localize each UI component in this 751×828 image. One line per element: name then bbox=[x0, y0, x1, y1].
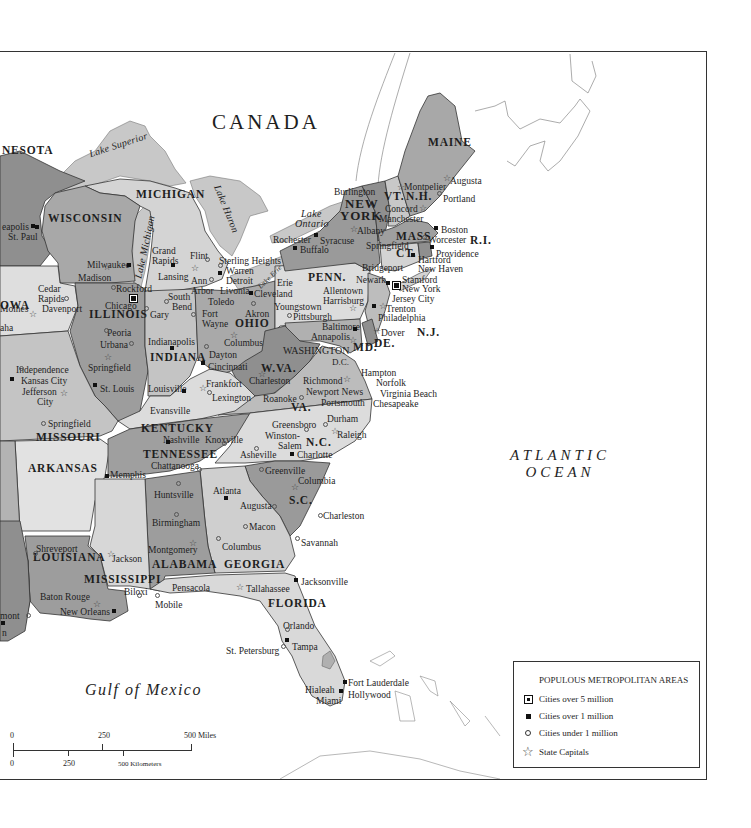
city-over-1m-icon bbox=[285, 638, 289, 642]
city-label: Biloxi bbox=[124, 587, 148, 597]
city-label: New Haven bbox=[418, 264, 463, 274]
city-over-1m-icon bbox=[1, 621, 5, 625]
city-under-1m-icon bbox=[174, 512, 179, 517]
legend-item-over-5m: Cities over 5 million bbox=[521, 694, 613, 704]
city-label: Independence bbox=[16, 365, 69, 375]
city-label: Pittsburgh bbox=[293, 312, 332, 322]
city-over-1m-icon bbox=[201, 361, 205, 365]
city-under-1m-icon bbox=[422, 235, 427, 240]
city-over-1m-icon bbox=[249, 291, 253, 295]
city-label: Jefferson bbox=[22, 387, 57, 397]
city-over-1m-icon bbox=[127, 263, 131, 267]
label-wisconsin: WISCONSIN bbox=[48, 213, 122, 223]
city-label: Cleveland bbox=[254, 289, 293, 299]
state-capital-star-icon: ☆ bbox=[331, 427, 339, 436]
scale-tick-250mi bbox=[102, 744, 103, 750]
label-missouri: MISSOURI bbox=[36, 432, 101, 442]
scale-miles-500: 500 Miles bbox=[184, 731, 216, 741]
state-capital-star-icon: ☆ bbox=[189, 539, 197, 548]
label-mississippi: MISSISSIPPI bbox=[84, 574, 161, 584]
scale-tick-250km bbox=[68, 750, 69, 756]
city-label: Springfield bbox=[88, 363, 131, 373]
city-label: St. Paul bbox=[8, 232, 38, 242]
city-under-1m-icon bbox=[33, 551, 38, 556]
city-under-1m-icon bbox=[218, 263, 223, 268]
city-label: Urbana bbox=[100, 340, 128, 350]
city-under-1m-icon bbox=[64, 296, 69, 301]
state-capital-star-icon: ☆ bbox=[236, 583, 244, 592]
label-minnesota: NESOTA bbox=[2, 145, 53, 155]
city-label: Atlanta bbox=[213, 486, 241, 496]
city-under-1m-icon bbox=[205, 257, 210, 262]
city-over-1m-icon bbox=[372, 304, 376, 308]
city-label: Ann bbox=[191, 276, 207, 286]
city-under-1m-icon bbox=[155, 593, 160, 598]
city-label: Augusta bbox=[240, 501, 272, 511]
city-label: Peoria bbox=[107, 328, 131, 338]
city-under-1m-icon bbox=[144, 306, 149, 311]
city-label: Hollywood bbox=[348, 690, 391, 700]
state-capital-star-icon: ☆ bbox=[104, 353, 112, 362]
city-label: Arbor bbox=[191, 286, 214, 296]
scale-km-250: 250 bbox=[63, 759, 75, 769]
city-over-1m-icon bbox=[182, 389, 186, 393]
scale-miles-250: 250 bbox=[98, 731, 110, 741]
city-label: Rapids bbox=[38, 294, 64, 304]
city-label: Akron bbox=[245, 309, 269, 319]
state-capital-star-icon: ☆ bbox=[349, 336, 357, 345]
city-under-1m-icon bbox=[287, 313, 292, 318]
city-under-1m-icon bbox=[272, 504, 277, 509]
city-over-1m-icon bbox=[171, 263, 175, 267]
city-over-1m-icon bbox=[411, 253, 415, 257]
state-capital-star-icon: ☆ bbox=[199, 384, 207, 393]
city-under-1m-icon bbox=[209, 277, 214, 282]
city-label: Toledo bbox=[208, 297, 234, 307]
label-tennessee: TENNESSEE bbox=[143, 449, 218, 459]
city-under-1m-icon bbox=[259, 467, 264, 472]
city-label: Winston- bbox=[265, 431, 300, 441]
city-over-5m-icon bbox=[393, 282, 400, 289]
label-washington-dc-2: D.C. bbox=[332, 357, 349, 367]
city-under-1m-icon bbox=[299, 395, 304, 400]
city-over-1m-icon bbox=[112, 609, 116, 613]
city-label: Erie bbox=[277, 278, 293, 288]
city-over-1m-icon bbox=[218, 271, 222, 275]
city-label: Tampa bbox=[292, 642, 318, 652]
square-filled-icon bbox=[521, 714, 535, 719]
state-capital-star-icon: ☆ bbox=[373, 327, 381, 336]
city-under-1m-icon bbox=[204, 344, 209, 349]
city-label: Miami bbox=[316, 696, 341, 706]
legend-label: Cities under 1 million bbox=[539, 728, 618, 738]
state-capital-star-icon: ☆ bbox=[93, 600, 101, 609]
city-label: Detroit bbox=[226, 276, 253, 286]
city-label: Huntsville bbox=[154, 490, 194, 500]
city-label: Springfield bbox=[366, 241, 409, 251]
label-atlantic-line2: OCEAN bbox=[495, 464, 625, 481]
city-under-1m-icon bbox=[216, 536, 221, 541]
city-under-1m-icon bbox=[437, 191, 442, 196]
city-label: Charlotte bbox=[297, 450, 332, 460]
city-label: Memphis bbox=[110, 470, 146, 480]
city-label: Concord bbox=[385, 204, 418, 214]
city-label: Columbia bbox=[298, 476, 335, 486]
label-nj: N.J. bbox=[417, 327, 440, 337]
city-label: Mobile bbox=[155, 600, 182, 610]
city-label: Chesapeake bbox=[373, 399, 418, 409]
city-label: Boston bbox=[441, 225, 468, 235]
scale-tick-0 bbox=[13, 743, 14, 757]
city-label: Jersey City bbox=[392, 294, 434, 304]
city-over-1m-icon bbox=[353, 327, 357, 331]
city-label: Dover bbox=[381, 328, 405, 338]
city-label: Gary bbox=[150, 310, 169, 320]
circle-open-icon bbox=[521, 730, 535, 736]
city-under-1m-icon bbox=[164, 299, 169, 304]
city-under-1m-icon bbox=[243, 524, 248, 529]
label-canada: CANADA bbox=[212, 117, 320, 127]
city-label: South bbox=[168, 292, 190, 302]
city-label: New York bbox=[402, 284, 441, 294]
canada-coastlines bbox=[356, 53, 596, 186]
label-kentucky: KENTUCKY bbox=[141, 423, 214, 433]
city-label: City bbox=[37, 397, 53, 407]
state-capital-star-icon: ☆ bbox=[419, 204, 427, 213]
city-label: Charleston bbox=[249, 376, 290, 386]
